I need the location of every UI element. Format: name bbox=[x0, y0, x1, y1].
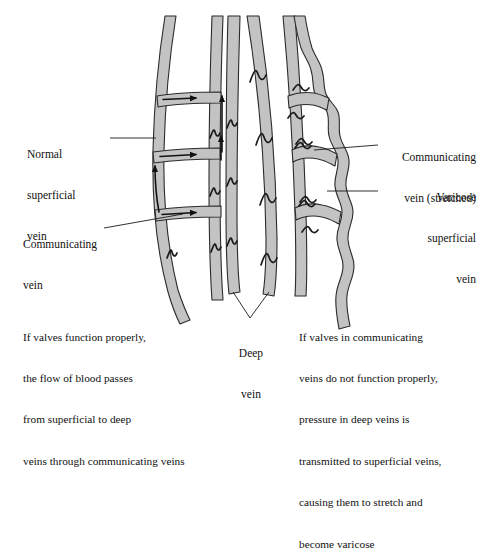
caption-right-line4: transmitted to superficial veins, bbox=[299, 455, 441, 469]
caption-right-line3: pressure in deep veins is bbox=[299, 413, 441, 427]
normal-superficial-vein-outer-wall bbox=[153, 16, 190, 324]
label-normal-superficial-vein-line1: Normal bbox=[27, 148, 76, 162]
caption-right-line2: veins do not function properly, bbox=[299, 372, 441, 386]
caption-left-line4: veins through communicating veins bbox=[23, 455, 185, 469]
normal-superficial-vein-group bbox=[153, 16, 223, 324]
caption-left-line3: from superficial to deep bbox=[23, 413, 185, 427]
label-normal-superficial-vein-line2: superficial bbox=[27, 189, 76, 203]
label-communicating-vein-stretched-line1: Communicating bbox=[318, 151, 476, 165]
label-varicose-superficial-vein: Varicose superficial vein bbox=[318, 164, 476, 314]
caption-right-line6: become varicose bbox=[299, 538, 441, 552]
label-deep-vein-line1: Deep bbox=[226, 347, 276, 361]
label-deep-vein: Deep vein bbox=[226, 320, 276, 429]
deep-vein-group bbox=[221, 16, 277, 296]
label-communicating-vein-line2: vein bbox=[23, 279, 97, 293]
label-varicose-superficial-vein-line3: vein bbox=[318, 273, 476, 287]
label-varicose-superficial-vein-line1: Varicose bbox=[318, 191, 476, 205]
leader-communicating-vein bbox=[104, 214, 183, 228]
deep-vein-right-wall bbox=[247, 16, 277, 296]
caption-right-line1: If valves in communicating bbox=[299, 331, 441, 345]
caption-right-line5: causing them to stretch and bbox=[299, 496, 441, 510]
caption-left-line2: the flow of blood passes bbox=[23, 372, 185, 386]
caption-left-line1: If valves function properly, bbox=[23, 331, 185, 345]
label-deep-vein-line2: vein bbox=[226, 388, 276, 402]
leader-deep-vein-left bbox=[233, 292, 250, 318]
label-communicating-vein-line1: Communicating bbox=[23, 238, 97, 252]
label-varicose-superficial-vein-line2: superficial bbox=[318, 232, 476, 246]
caption-right-varicose-formation: If valves in communicating veins do not … bbox=[299, 303, 441, 552]
caption-left-normal-flow: If valves function properly, the flow of… bbox=[23, 303, 185, 496]
deep-vein-left-wall bbox=[226, 16, 240, 294]
leader-deep-vein-right bbox=[250, 292, 269, 318]
